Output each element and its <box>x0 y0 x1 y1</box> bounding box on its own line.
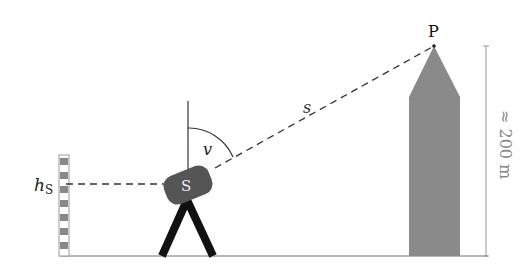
diagram-canvas: P s v S hS ≈ 200 m <box>0 0 526 279</box>
station-height-label: hS <box>34 175 53 197</box>
angle-label: v <box>203 140 212 159</box>
tower <box>409 46 460 256</box>
station-label: S <box>181 177 191 195</box>
leveling-staff <box>59 155 69 256</box>
sight-line <box>215 46 434 168</box>
point-label: P <box>428 22 439 41</box>
target-point <box>432 44 436 48</box>
tripod <box>162 200 213 256</box>
object-height-label: ≈ 200 m <box>496 110 515 179</box>
height-dimension <box>483 46 489 256</box>
distance-label: s <box>303 98 311 117</box>
